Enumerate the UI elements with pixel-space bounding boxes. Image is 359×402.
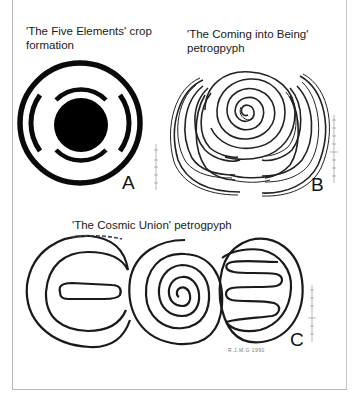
scale-bar-a (154, 144, 158, 190)
coming-into-being-figure (170, 72, 329, 196)
figures-drawing (0, 0, 359, 402)
cosmic-union-figure (27, 236, 303, 347)
five-elements-figure (20, 63, 140, 183)
scale-bar-c (308, 285, 316, 342)
scale-bar-b (330, 115, 338, 183)
